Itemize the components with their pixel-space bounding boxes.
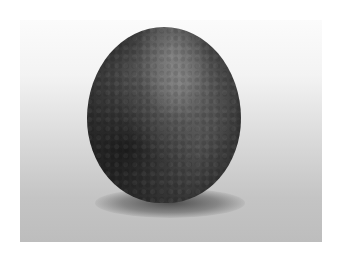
stone-texture	[87, 27, 241, 203]
photo-frame	[20, 20, 322, 242]
stone	[87, 27, 241, 203]
